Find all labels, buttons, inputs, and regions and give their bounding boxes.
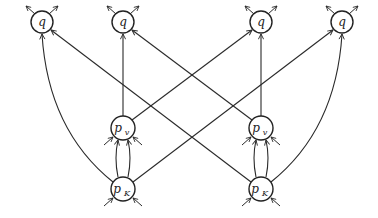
node-label: q bbox=[257, 15, 265, 29]
node-subscript: v bbox=[263, 128, 268, 137]
edge-pk2-pv2-a bbox=[254, 140, 256, 177]
node-q3: q bbox=[250, 11, 272, 33]
edge-pk2-pv2-b bbox=[266, 140, 268, 177]
node-label: p bbox=[113, 182, 121, 196]
node-subscript: K bbox=[123, 189, 131, 198]
node-pv1: p v bbox=[111, 116, 135, 140]
node-q1: q bbox=[31, 11, 53, 33]
node-label: p bbox=[252, 121, 260, 135]
edges bbox=[42, 30, 342, 182]
edge-pk1-pv1-a bbox=[116, 140, 118, 177]
node-pk2: p K bbox=[249, 177, 273, 201]
edge-pk1-pv1-b bbox=[128, 140, 130, 177]
node-q4: q bbox=[331, 11, 353, 33]
node-label: q bbox=[119, 15, 127, 29]
node-pk1: p K bbox=[111, 177, 135, 201]
graph-diagram: q q q q p v p v p K p K bbox=[0, 0, 378, 218]
node-q2: q bbox=[112, 11, 134, 33]
node-label: q bbox=[38, 15, 46, 29]
node-label: p bbox=[251, 182, 259, 196]
stub-arrows bbox=[26, 6, 358, 206]
node-subscript: K bbox=[261, 189, 269, 198]
node-subscript: v bbox=[125, 128, 130, 137]
node-label: q bbox=[338, 15, 346, 29]
node-pv2: p v bbox=[249, 116, 273, 140]
edge-pk2-q4 bbox=[271, 34, 342, 182]
edge-pk1-q1 bbox=[42, 34, 113, 182]
node-label: p bbox=[114, 121, 122, 135]
